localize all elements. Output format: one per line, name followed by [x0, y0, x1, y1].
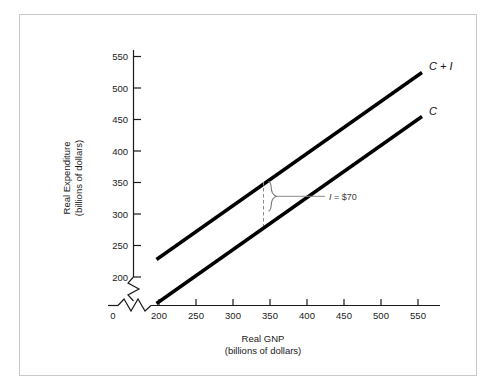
x-axis-ticks	[159, 299, 418, 306]
y-tick-label-200: 200	[112, 272, 128, 283]
x-tick-label-500: 500	[373, 310, 389, 321]
series-label-c-plus-i: C + I	[429, 60, 453, 72]
y-tick-label-500: 500	[112, 83, 128, 94]
y-tick-label-550: 550	[112, 51, 128, 62]
x-tick-label-400: 400	[299, 310, 315, 321]
y-tick-label-350: 350	[112, 177, 128, 188]
gap-brace-icon	[269, 182, 277, 212]
y-axis-break-zigzag	[128, 277, 139, 301]
y-tick-label-400: 400	[112, 146, 128, 157]
x-tick-label-350: 350	[262, 310, 278, 321]
y-tick-label-300: 300	[112, 209, 128, 220]
y-axis-ticks	[134, 57, 142, 278]
x-axis-title-units: (billions of dollars)	[225, 345, 302, 356]
x-tick-label-550: 550	[410, 310, 426, 321]
x-axis-break-zigzag	[118, 299, 151, 311]
series-label-c: C	[429, 105, 437, 117]
y-axis-title: Real Expenditure	[61, 142, 72, 215]
x-axis-title: Real GNP	[242, 333, 285, 344]
y-tick-label-250: 250	[112, 240, 128, 251]
series-line-c-plus-i	[157, 73, 423, 260]
x-tick-label-300: 300	[225, 310, 241, 321]
gap-annotation-label: I = $70	[329, 192, 357, 202]
gap-label-value: = $70	[332, 192, 357, 202]
x-tick-label-200: 200	[151, 310, 167, 321]
x-tick-label-450: 450	[336, 310, 352, 321]
figure-canvas: 550 500 450 400 350 300 250 200 0 200 25…	[0, 0, 496, 391]
y-axis-title-units: (billions of dollars)	[73, 140, 84, 217]
chart-plot-area: 550 500 450 400 350 300 250 200 0 200 25…	[0, 0, 496, 391]
x-tick-label-0: 0	[110, 310, 115, 321]
series-line-c	[157, 117, 423, 304]
x-tick-label-250: 250	[188, 310, 204, 321]
y-tick-label-450: 450	[112, 114, 128, 125]
